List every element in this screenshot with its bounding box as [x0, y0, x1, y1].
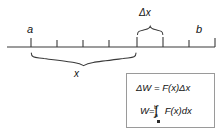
equation-work-integral: W=∫baF(x)dx	[140, 103, 192, 116]
integral-upper-limit: b	[154, 104, 157, 110]
axis-ticks	[31, 37, 215, 47]
equation-2-integrand: F(x)dx	[165, 105, 192, 116]
delta-x-brace	[138, 26, 163, 34]
x-brace	[31, 53, 136, 66]
label-a: a	[27, 24, 33, 35]
formula-box: ΔW = F(x)Δx W=∫baF(x)dx	[126, 73, 215, 128]
integral-lower-limit: a	[154, 112, 157, 118]
label-b: b	[196, 24, 202, 35]
label-delta-x: Δx	[139, 8, 151, 18]
work-integral-diagram: a b x Δx ΔW = F(x)Δx W=∫baF(x)dx	[0, 0, 222, 137]
equation-1-text: ΔW = F(x)Δx	[136, 82, 190, 93]
equation-delta-work: ΔW = F(x)Δx	[136, 83, 190, 93]
label-x: x	[74, 69, 79, 79]
dot-mark-icon	[157, 120, 160, 123]
equation-2-lhs: W	[140, 105, 149, 116]
